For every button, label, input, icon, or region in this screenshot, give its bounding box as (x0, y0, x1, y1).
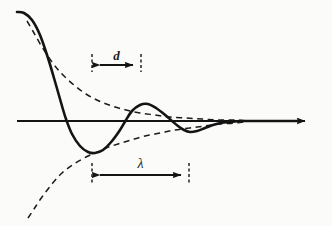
damped-oscillation-curve (17, 12, 300, 153)
figure-container: d λ (0, 0, 332, 226)
damped-oscillation-diagram (0, 0, 332, 226)
lambda-label: λ (137, 157, 143, 171)
d-label: d (113, 49, 120, 62)
